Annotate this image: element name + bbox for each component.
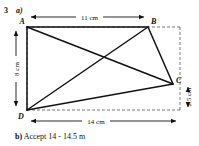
vertex-label-D: D <box>17 112 24 121</box>
dimension-left-label: 8 cm <box>13 62 21 76</box>
dimension-left: 8 cm <box>13 31 21 106</box>
part-b-answer-text: Accept 14 - 14.5 m <box>24 132 86 141</box>
dimension-bottom: 14 cm <box>31 118 176 126</box>
part-b-answer: b) Accept 14 - 14.5 m <box>15 132 85 142</box>
diagonal-BD <box>27 27 148 110</box>
dimension-top: 11 cm <box>31 14 144 22</box>
dimension-top-label: 11 cm <box>81 14 99 22</box>
vertex-label-C: C <box>176 76 182 85</box>
dimension-right-label: 2.5 cm <box>185 87 193 107</box>
geometry-diagram: A B C D 11 cm 8 cm 14 cm 2.5 cm <box>0 0 199 146</box>
vertex-label-A: A <box>19 17 26 26</box>
edge-CD <box>27 84 173 110</box>
quadrilateral-edges <box>27 27 173 110</box>
dashed-bounding-rectangle <box>27 27 180 110</box>
figure-panel: 3 a) A <box>0 0 199 146</box>
part-b-label: b) <box>15 132 22 141</box>
vertex-label-B: B <box>150 17 157 26</box>
dimension-bottom-label: 14 cm <box>87 118 105 126</box>
dimension-right: 2.5 cm <box>185 87 193 107</box>
